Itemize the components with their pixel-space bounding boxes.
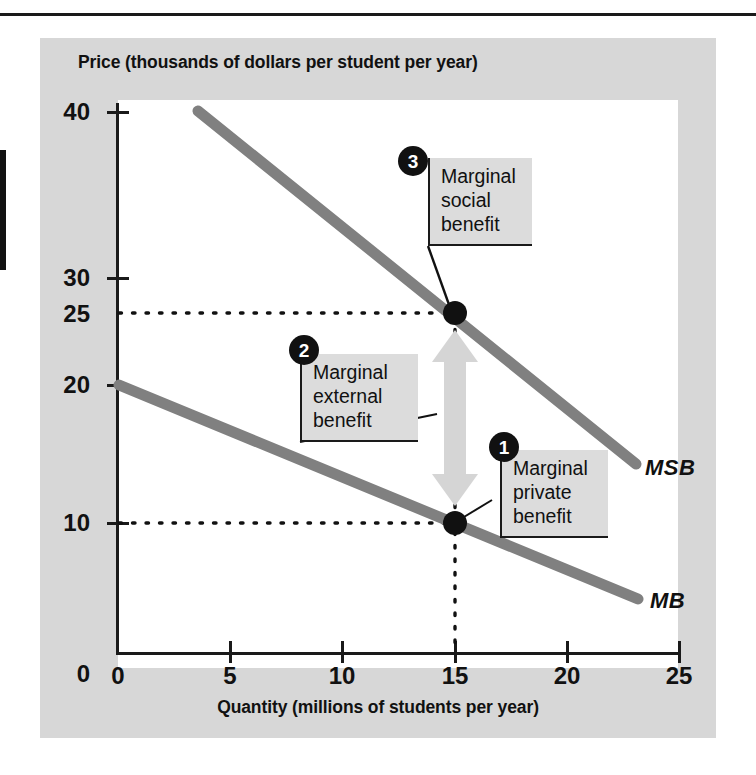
marker-marginal-social-benefit bbox=[443, 301, 467, 325]
callout-1-line-1: Marginal bbox=[513, 457, 598, 481]
callout-3-badge: 3 bbox=[398, 146, 428, 176]
callout-3-line-3: benefit bbox=[441, 213, 522, 237]
callout-2-line-3: benefit bbox=[313, 409, 408, 433]
curve-label-mb: MB bbox=[650, 588, 685, 614]
callout-3-line-2: social bbox=[441, 189, 522, 213]
callout-2-line-2: external bbox=[313, 385, 408, 409]
curve-label-msb: MSB bbox=[645, 455, 695, 481]
callout-marginal-social-benefit[interactable]: Marginal social benefit bbox=[428, 158, 532, 246]
callout-1-badge: 1 bbox=[489, 432, 519, 462]
callout-2-line-1: Marginal bbox=[313, 361, 408, 385]
external-benefit-gap-arrow bbox=[432, 330, 478, 506]
marker-marginal-private-benefit bbox=[443, 511, 467, 535]
callout-2-badge: 2 bbox=[289, 335, 319, 365]
callout-1-line-2: private bbox=[513, 481, 598, 505]
callout-marginal-private-benefit[interactable]: Marginal private benefit bbox=[500, 450, 608, 538]
callout-1-line-3: benefit bbox=[513, 505, 598, 529]
callout-3-line-1: Marginal bbox=[441, 165, 522, 189]
callout-marginal-external-benefit[interactable]: Marginal external benefit bbox=[300, 354, 418, 442]
